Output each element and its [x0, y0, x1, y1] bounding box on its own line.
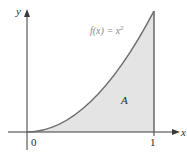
function-label-base: f(x) = x	[90, 25, 121, 37]
area-label: A	[120, 94, 128, 106]
function-label: f(x) = x2	[90, 24, 124, 37]
y-axis-arrow-icon	[24, 9, 30, 17]
x-axis-label: x	[180, 126, 186, 138]
area-under-curve-plot: y x f(x) = x2 A 0 1	[0, 0, 187, 155]
x-axis-arrow-icon	[172, 129, 180, 135]
y-axis-label: y	[15, 5, 21, 17]
function-label-exponent: 2	[120, 24, 124, 32]
tick-label-0: 0	[31, 136, 37, 148]
tick-label-1: 1	[150, 136, 156, 148]
